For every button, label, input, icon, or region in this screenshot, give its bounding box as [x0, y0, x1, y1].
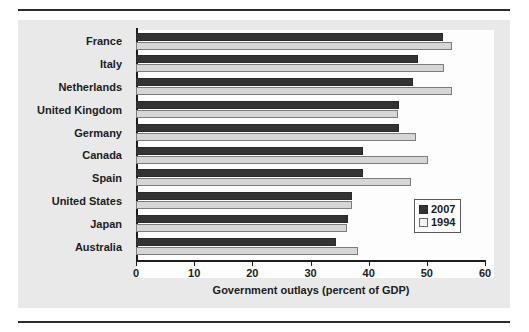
- category-label: France: [86, 35, 122, 47]
- x-tick-label: 20: [237, 267, 267, 279]
- legend-item-1994: 1994: [419, 216, 455, 229]
- x-tick-label: 0: [121, 267, 151, 279]
- x-tick: [427, 260, 428, 266]
- category-label: United Kingdom: [37, 104, 122, 116]
- bar-2007: [136, 33, 443, 41]
- bar-group: [136, 98, 485, 121]
- x-tick: [485, 260, 486, 266]
- bar-1994: [136, 224, 347, 232]
- bar-2007: [136, 101, 399, 109]
- bottom-divider-rule: [18, 321, 510, 323]
- bar-2007: [136, 192, 352, 200]
- category-label: Spain: [92, 172, 122, 184]
- category-label: Germany: [74, 127, 122, 139]
- legend-item-2007: 2007: [419, 203, 455, 216]
- bar-group: [136, 30, 485, 53]
- x-tick: [194, 260, 195, 266]
- x-tick-label: 50: [412, 267, 442, 279]
- bar-2007: [136, 238, 336, 246]
- x-tick-label: 40: [354, 267, 384, 279]
- legend-label-1994: 1994: [431, 216, 455, 229]
- x-axis-title: Government outlays (percent of GDP): [136, 284, 486, 296]
- bar-1994: [136, 156, 428, 164]
- x-tick: [311, 260, 312, 266]
- bar-group: [136, 167, 485, 190]
- category-label: Italy: [100, 58, 122, 70]
- x-tick: [252, 260, 253, 266]
- bar-1994: [136, 64, 444, 72]
- top-divider-rule: [18, 9, 510, 11]
- legend-label-2007: 2007: [431, 203, 455, 216]
- category-label: Netherlands: [58, 81, 122, 93]
- bar-group: [136, 235, 485, 258]
- bar-1994: [136, 110, 398, 118]
- bar-2007: [136, 147, 363, 155]
- bar-group: [136, 121, 485, 144]
- category-label: Canada: [82, 149, 122, 161]
- legend: 2007 1994: [414, 199, 461, 233]
- x-tick: [136, 260, 137, 266]
- bar-2007: [136, 124, 399, 132]
- bar-1994: [136, 178, 411, 186]
- x-tick-label: 10: [179, 267, 209, 279]
- bar-group: [136, 76, 485, 99]
- x-tick: [369, 260, 370, 266]
- category-label: Japan: [90, 218, 122, 230]
- category-axis-labels: FranceItalyNetherlandsUnited KingdomGerm…: [0, 30, 130, 258]
- category-label: United States: [52, 195, 122, 207]
- bar-2007: [136, 78, 413, 86]
- bar-group: [136, 53, 485, 76]
- bar-1994: [136, 247, 358, 255]
- bar-1994: [136, 133, 416, 141]
- bar-2007: [136, 215, 348, 223]
- category-label: Australia: [75, 241, 122, 253]
- bar-2007: [136, 55, 418, 63]
- bar-1994: [136, 87, 452, 95]
- x-tick-label: 60: [470, 267, 500, 279]
- bar-1994: [136, 42, 452, 50]
- bar-1994: [136, 201, 352, 209]
- bar-group: [136, 144, 485, 167]
- chart-figure: FranceItalyNetherlandsUnited KingdomGerm…: [0, 0, 529, 332]
- legend-swatch-2007: [419, 205, 428, 214]
- x-tick-label: 30: [296, 267, 326, 279]
- legend-swatch-1994: [419, 218, 428, 227]
- bar-2007: [136, 169, 363, 177]
